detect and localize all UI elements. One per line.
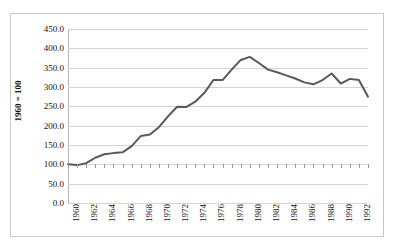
x-axis-tick bbox=[77, 164, 78, 168]
y-axis-tick-label: 100.0 bbox=[20, 159, 64, 169]
x-axis-tick bbox=[68, 164, 69, 168]
x-axis-tick bbox=[368, 164, 369, 168]
y-axis-tick-label-group: 450.0400.0350.0300.0250.0200.0150.0100.0… bbox=[20, 24, 64, 208]
y-axis-tick-label: 250.0 bbox=[20, 101, 64, 111]
x-axis-tick bbox=[150, 164, 151, 168]
x-axis-tick bbox=[86, 164, 87, 168]
x-axis-tick-label: 1964 bbox=[108, 204, 117, 238]
x-axis-tick bbox=[323, 164, 324, 168]
x-axis-tick bbox=[123, 164, 124, 168]
x-axis-tick bbox=[104, 164, 105, 168]
x-axis-tick bbox=[213, 164, 214, 168]
x-axis-tick-label: 1966 bbox=[127, 204, 136, 238]
plot-area bbox=[68, 29, 368, 203]
y-axis-tick-label: 450.0 bbox=[20, 24, 64, 34]
y-axis-tick-label: 400.0 bbox=[20, 43, 64, 53]
x-axis-tick bbox=[232, 164, 233, 168]
x-axis-tick bbox=[350, 164, 351, 168]
x-axis-tick bbox=[195, 164, 196, 168]
x-axis-tick bbox=[186, 164, 187, 168]
x-axis-tick bbox=[332, 164, 333, 168]
y-axis-tick-label: 0.0 bbox=[20, 198, 64, 208]
x-axis-tick-label: 1962 bbox=[90, 204, 99, 238]
x-axis-tick bbox=[95, 164, 96, 168]
x-axis-tick bbox=[223, 164, 224, 168]
x-axis-tick bbox=[268, 164, 269, 168]
x-axis-tick-label: 1978 bbox=[236, 204, 245, 238]
x-axis-tick bbox=[241, 164, 242, 168]
x-axis-tick-label: 1960 bbox=[72, 204, 81, 238]
y-axis-tick-label: 200.0 bbox=[20, 121, 64, 131]
x-axis-tick-label: 1990 bbox=[345, 204, 354, 238]
y-axis-tick-label: 300.0 bbox=[20, 82, 64, 92]
x-axis-tick-group bbox=[68, 164, 368, 172]
chart-figure: 1960 = 100 450.0400.0350.0300.0250.0200.… bbox=[0, 0, 395, 249]
x-axis-tick bbox=[259, 164, 260, 168]
x-axis-tick bbox=[277, 164, 278, 168]
x-axis-tick-label: 1980 bbox=[254, 204, 263, 238]
x-axis-tick bbox=[177, 164, 178, 168]
x-axis-tick bbox=[341, 164, 342, 168]
x-axis-tick bbox=[250, 164, 251, 168]
x-axis-tick bbox=[359, 164, 360, 168]
x-axis-tick bbox=[304, 164, 305, 168]
x-axis-tick-label: 1986 bbox=[308, 204, 317, 238]
x-axis-tick bbox=[159, 164, 160, 168]
series-line-chart bbox=[68, 29, 368, 203]
x-axis-tick-label: 1988 bbox=[327, 204, 336, 238]
x-axis-tick-label: 1968 bbox=[145, 204, 154, 238]
x-axis-tick bbox=[113, 164, 114, 168]
x-axis-tick bbox=[313, 164, 314, 168]
x-axis-tick-label: 1976 bbox=[217, 204, 226, 238]
x-axis-tick bbox=[168, 164, 169, 168]
x-axis-tick-label-group: 1960196219641966196819701972197419761978… bbox=[68, 206, 368, 240]
x-axis-tick-label: 1974 bbox=[199, 204, 208, 238]
series-line-index bbox=[68, 57, 368, 165]
x-axis-tick bbox=[204, 164, 205, 168]
x-axis-tick bbox=[141, 164, 142, 168]
y-axis-tick-label: 350.0 bbox=[20, 63, 64, 73]
y-axis-tick-label: 50.0 bbox=[20, 179, 64, 189]
x-axis-tick-label: 1972 bbox=[181, 204, 190, 238]
x-axis-tick bbox=[286, 164, 287, 168]
x-axis-tick-label: 1992 bbox=[363, 204, 372, 238]
y-axis-tick-label: 150.0 bbox=[20, 140, 64, 150]
x-axis-tick-label: 1984 bbox=[290, 204, 299, 238]
x-axis-tick bbox=[295, 164, 296, 168]
x-axis-tick-label: 1982 bbox=[272, 204, 281, 238]
x-axis-tick-label: 1970 bbox=[163, 204, 172, 238]
x-axis-tick bbox=[132, 164, 133, 168]
